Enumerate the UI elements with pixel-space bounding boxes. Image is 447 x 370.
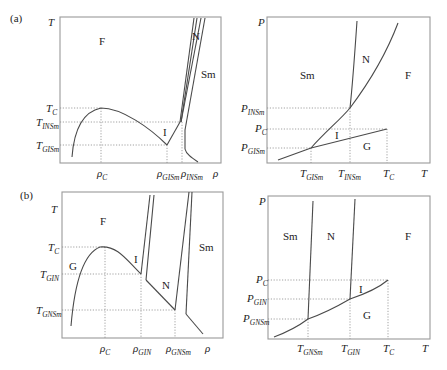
a-left-ytick-tc: TC bbox=[46, 102, 58, 117]
b-right-frame bbox=[268, 196, 430, 339]
a-left-sm-lower-boundary bbox=[185, 130, 198, 162]
phase-diagram-figure: (a) T F N Sm I TC TINSm TGISm ρC ρGISm ρ… bbox=[0, 0, 447, 370]
b-left-coexistence-curve bbox=[71, 247, 141, 326]
a-right-gas-liquid-line bbox=[311, 129, 387, 148]
a-right-ytick-pinsm: PINSm bbox=[240, 102, 265, 117]
a-right-region-Sm: Sm bbox=[300, 69, 315, 81]
b-left-region-N: N bbox=[162, 279, 170, 291]
b-left-in-line-2 bbox=[146, 195, 154, 280]
a-left-region-F: F bbox=[99, 35, 105, 47]
panel-b-right-p-t: P Sm N F I G PC PGIN PGNSm TGNSm TGIN TC… bbox=[242, 195, 430, 357]
b-right-nematic-smectic-line bbox=[308, 201, 313, 319]
b-left-xtick-rhoc: ρC bbox=[99, 342, 111, 357]
a-right-region-G: G bbox=[363, 140, 371, 152]
b-right-region-G: G bbox=[363, 309, 371, 321]
b-left-region-Sm: Sm bbox=[199, 241, 214, 253]
a-right-xtick-tgism: TGISm bbox=[300, 167, 324, 182]
b-right-region-I: I bbox=[359, 283, 363, 295]
b-right-xtick-tc: TC bbox=[383, 342, 395, 357]
b-right-region-F: F bbox=[405, 230, 411, 242]
b-right-gn-line bbox=[308, 299, 350, 319]
b-right-region-Sm: Sm bbox=[283, 230, 298, 242]
a-right-frame bbox=[267, 17, 430, 163]
a-left-coexistence-curve bbox=[72, 108, 167, 157]
a-right-nematic-smectic-line bbox=[350, 21, 357, 108]
a-right-ytick-pgism: PGISm bbox=[240, 141, 265, 156]
b-right-y-axis-label: P bbox=[258, 195, 266, 207]
b-left-sm-lower-boundary bbox=[186, 314, 203, 334]
b-right-region-N: N bbox=[327, 230, 335, 242]
a-right-region-F: F bbox=[405, 69, 411, 81]
b-right-gas-liquid-line bbox=[350, 280, 388, 299]
a-right-region-I: I bbox=[335, 129, 339, 141]
b-left-x-axis-label: ρ bbox=[204, 342, 210, 354]
a-left-xtick-rhogism: ρGISm bbox=[156, 167, 180, 182]
b-right-ytick-pc: PC bbox=[255, 273, 269, 288]
b-left-in-line-1 bbox=[141, 195, 150, 274]
b-left-xtick-rhognsm: ρGNSm bbox=[165, 342, 191, 357]
b-right-sublimation-line bbox=[274, 319, 308, 337]
panel-a-tag: (a) bbox=[10, 12, 23, 25]
b-left-gn-boundary bbox=[146, 280, 175, 310]
a-left-i-boundary bbox=[167, 122, 180, 145]
b-right-ytick-pgin: PGIN bbox=[246, 292, 268, 307]
a-left-x-axis-label: ρ bbox=[212, 167, 218, 179]
b-right-ytick-pgnsm: PGNSm bbox=[242, 312, 270, 327]
a-right-ytick-pc: PC bbox=[254, 122, 268, 137]
b-left-ytick-tgnsm: TGNSm bbox=[36, 304, 62, 319]
panel-a-right-p-t: P Sm N F I G PINSm PC PGISm TGISm TINSm … bbox=[240, 16, 430, 182]
a-left-region-N: N bbox=[192, 30, 200, 42]
a-right-xtick-tinsm: TINSm bbox=[338, 167, 361, 182]
a-left-xtick-rhoc: ρC bbox=[96, 167, 108, 182]
b-left-xtick-rhogin: ρGIN bbox=[132, 342, 152, 357]
panel-b-left-t-rho: (b) T F G I N Sm TC TGIN TGNSm ρC ρGIN ρ… bbox=[20, 189, 223, 357]
a-right-y-axis-label: P bbox=[257, 16, 265, 28]
b-right-xtick-tgin: TGIN bbox=[341, 342, 361, 357]
a-left-region-Sm: Sm bbox=[201, 68, 216, 80]
b-right-x-axis-label: T bbox=[422, 342, 429, 354]
a-right-sublimation-line bbox=[278, 148, 311, 160]
panel-a-left-t-rho: (a) T F N Sm I TC TINSm TGISm ρC ρGISm ρ… bbox=[10, 12, 221, 182]
panel-b-tag: (b) bbox=[20, 189, 33, 202]
b-left-ytick-tc: TC bbox=[48, 241, 60, 256]
b-right-xtick-tgnsm: TGNSm bbox=[297, 342, 323, 357]
b-left-region-I: I bbox=[134, 253, 138, 265]
a-left-region-I: I bbox=[163, 126, 167, 138]
a-left-xtick-rhoinsm: ρINSm bbox=[180, 167, 204, 182]
a-right-xtick-tc: TC bbox=[383, 167, 395, 182]
b-right-iso-nematic-line bbox=[350, 199, 355, 299]
a-left-ytick-tgism: TGISm bbox=[36, 139, 60, 154]
a-left-y-axis-label: T bbox=[48, 16, 55, 28]
a-right-region-N: N bbox=[362, 53, 370, 65]
b-left-ytick-tgin: TGIN bbox=[40, 268, 60, 283]
a-left-ytick-tinsm: TINSm bbox=[36, 116, 59, 131]
b-left-region-G: G bbox=[69, 260, 77, 272]
b-left-region-F: F bbox=[100, 215, 106, 227]
a-right-x-axis-label: T bbox=[421, 167, 428, 179]
b-left-y-axis-label: T bbox=[51, 203, 58, 215]
